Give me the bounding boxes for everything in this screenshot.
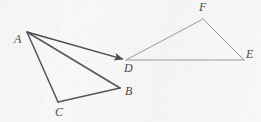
vertex-label-b: B [125, 85, 132, 97]
segment-fd [126, 19, 203, 60]
vertex-label-d: D [124, 62, 133, 74]
segment-ca [27, 32, 58, 102]
translation-arrow-ad [27, 32, 123, 59]
vertex-label-c: C [55, 106, 63, 118]
segment-bc [58, 88, 120, 102]
vertex-label-a: A [14, 33, 21, 45]
arrow-shaft-ad [27, 32, 123, 59]
vertex-label-e: E [246, 48, 253, 60]
segment-ab [27, 32, 120, 88]
vertex-label-f: F [199, 1, 206, 13]
image-triangle-def [126, 19, 244, 60]
geometry-figure: A B C D E F [0, 0, 261, 122]
segment-ef [203, 19, 244, 60]
source-triangle-abc [27, 32, 120, 102]
